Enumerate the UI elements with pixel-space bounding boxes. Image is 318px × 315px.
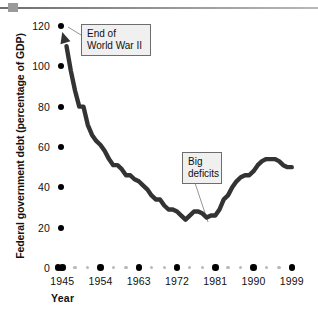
chart-figure: Federal government debt (percentage of G… <box>0 0 318 315</box>
x-tick-dot-minor <box>239 266 242 269</box>
y-tick-40: 40 <box>0 184 64 194</box>
x-tick-dot-major-1972 <box>174 264 181 271</box>
y-tick-label: 20 <box>38 222 50 234</box>
y-tick-20: 20 <box>0 225 64 235</box>
x-tick-dot-minor <box>277 266 280 269</box>
y-tick-label: 120 <box>32 20 50 32</box>
x-tick-label-1954: 1954 <box>81 275 121 287</box>
y-tick-100: 100 <box>0 63 64 73</box>
x-tick-label-1945: 1945 <box>42 275 82 287</box>
y-tick-80: 80 <box>0 104 64 114</box>
annotation-big-deficits: Big deficits <box>182 152 222 184</box>
top-divider-cap <box>8 3 18 12</box>
plot-area <box>58 20 306 272</box>
x-tick-label-1963: 1963 <box>119 275 159 287</box>
x-tick-dot-minor <box>112 266 115 269</box>
x-tick-label-1972: 1972 <box>157 275 197 287</box>
y-tick-label: 80 <box>38 101 50 113</box>
x-tick-label-1990: 1990 <box>234 275 274 287</box>
x-tick-dot-minor <box>86 266 89 269</box>
x-tick-dot-minor <box>226 266 229 269</box>
x-tick-label-1981: 1981 <box>195 275 235 287</box>
top-divider-rule <box>0 7 318 9</box>
y-tick-label: 100 <box>32 60 50 72</box>
x-tick-dot-minor <box>201 266 204 269</box>
y-tick-60: 60 <box>0 144 64 154</box>
x-tick-dot-minor <box>265 266 268 269</box>
x-tick-label-1999: 1999 <box>272 275 312 287</box>
x-tick-dot-major-1999 <box>289 264 296 271</box>
x-tick-dot-major-1954 <box>97 264 104 271</box>
x-tick-dot-minor <box>73 266 76 269</box>
y-tick-label: 60 <box>38 141 50 153</box>
y-tick-label: 40 <box>38 181 50 193</box>
x-tick-dot-minor <box>188 266 191 269</box>
x-tick-dot-minor <box>163 266 166 269</box>
x-axis-ticks <box>0 264 318 274</box>
x-axis-labels: 1945195419631972198119901999 <box>0 275 318 289</box>
x-tick-dot-minor <box>124 266 127 269</box>
annotation-end-of-world-war-ii: End of World War II <box>81 24 151 56</box>
x-tick-dot-major-1963 <box>136 264 143 271</box>
x-tick-dot-major-1981 <box>212 264 219 271</box>
x-tick-dot-minor <box>150 266 153 269</box>
x-axis-origin-dot <box>55 264 62 271</box>
x-tick-dot-major-1990 <box>250 264 257 271</box>
x-axis-title: Year <box>51 292 74 304</box>
y-tick-120: 120 <box>0 23 64 33</box>
